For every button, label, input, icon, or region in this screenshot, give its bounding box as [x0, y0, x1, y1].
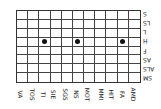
row-label: S — [143, 10, 159, 19]
grid-cell — [106, 38, 117, 47]
grid-cell — [28, 73, 39, 82]
grid-cell — [73, 29, 84, 38]
column-label: SGS — [59, 85, 71, 105]
grid-cell — [73, 11, 84, 20]
column-label: MMI — [95, 85, 107, 105]
grid-cell — [129, 29, 140, 38]
grid-cell — [118, 29, 129, 38]
dot-marker — [120, 39, 125, 44]
grid-cell — [95, 38, 106, 47]
grid-cell — [51, 47, 62, 56]
grid-cell — [118, 38, 129, 47]
column-label-text: FA — [119, 91, 126, 98]
grid-cell — [129, 38, 140, 47]
grid-cell — [106, 11, 117, 20]
column-label: SIE — [49, 85, 59, 105]
grid-cell — [51, 55, 62, 64]
grid-cell — [73, 64, 84, 73]
grid-cell — [106, 29, 117, 38]
grid-cell — [28, 64, 39, 73]
grid-cell — [39, 47, 50, 56]
grid-cell — [62, 38, 73, 47]
grid-cell — [106, 73, 117, 82]
row-label-text: ALS — [143, 66, 154, 73]
grid-cell — [84, 20, 95, 29]
column-label: MOT — [81, 85, 95, 105]
grid-cell — [51, 11, 62, 20]
grid-cell — [17, 64, 28, 73]
grid-cell — [129, 64, 140, 73]
grid-cell — [129, 73, 140, 82]
grid-cell — [39, 29, 50, 38]
grid-cell — [62, 20, 73, 29]
column-label: NS — [71, 85, 81, 105]
grid-cell — [129, 47, 140, 56]
grid-cell — [95, 20, 106, 29]
row-label-text: L — [143, 29, 146, 36]
row-label: F — [143, 47, 159, 56]
row-label: SM — [143, 74, 159, 83]
row-label: LS — [143, 19, 159, 28]
grid-cell — [84, 47, 95, 56]
grid-cell — [73, 55, 84, 64]
column-labels: VATOSTISIESGSNSMOTMMIHITFAAMD — [16, 85, 141, 105]
dot-marker — [75, 39, 80, 44]
grid-cell — [118, 55, 129, 64]
column-label: TOS — [26, 85, 38, 105]
grid-cell — [51, 73, 62, 82]
grid-cell — [28, 11, 39, 20]
grid-cell — [95, 29, 106, 38]
grid-cell — [17, 29, 28, 38]
grid-cell — [84, 38, 95, 47]
grid-cell — [95, 11, 106, 20]
grid-cell — [95, 73, 106, 82]
grid-cell — [84, 64, 95, 73]
grid-cell — [39, 11, 50, 20]
row-label-text: S — [143, 11, 147, 18]
grid-cell — [118, 64, 129, 73]
column-label-text: SGS — [61, 88, 68, 100]
row-labels: SLSLHFASALSSM — [143, 10, 159, 83]
grid-cell — [95, 64, 106, 73]
grid-cell — [118, 20, 129, 29]
row-label: L — [143, 28, 159, 37]
row-label: AS — [143, 56, 159, 65]
grid-cell — [39, 55, 50, 64]
matrix-grid — [16, 10, 141, 83]
grid-cell — [17, 11, 28, 20]
grid-cell — [17, 47, 28, 56]
grid-cell — [73, 20, 84, 29]
column-label-text: TI — [40, 92, 47, 97]
row-label-text: F — [143, 48, 146, 55]
grid-cell — [51, 38, 62, 47]
grid-cell — [39, 20, 50, 29]
dot-marker — [42, 39, 47, 44]
grid-cell — [106, 47, 117, 56]
grid-cell — [129, 20, 140, 29]
grid-cell — [62, 47, 73, 56]
grid-cell — [95, 47, 106, 56]
column-label-text: MOT — [84, 88, 91, 102]
column-label: FA — [117, 85, 127, 105]
grid-cell — [62, 29, 73, 38]
grid-cell — [73, 73, 84, 82]
row-label-text: SM — [143, 75, 152, 82]
grid-cell — [39, 64, 50, 73]
row-label: H — [143, 37, 159, 46]
row-label-text: H — [143, 38, 148, 45]
column-label-text: VA — [18, 91, 25, 99]
grid-cell — [28, 47, 39, 56]
grid-cell — [62, 55, 73, 64]
grid-cell — [62, 73, 73, 82]
row-label-text: LS — [143, 20, 150, 27]
grid-cell — [28, 55, 39, 64]
column-label: TI — [38, 85, 48, 105]
grid-cell — [84, 55, 95, 64]
grid-cell — [118, 47, 129, 56]
grid-cell — [73, 47, 84, 56]
column-label-text: HIT — [108, 90, 115, 100]
column-label-text: TOS — [29, 88, 36, 100]
grid-cell — [84, 29, 95, 38]
grid-cell — [106, 64, 117, 73]
grid-cell — [95, 55, 106, 64]
